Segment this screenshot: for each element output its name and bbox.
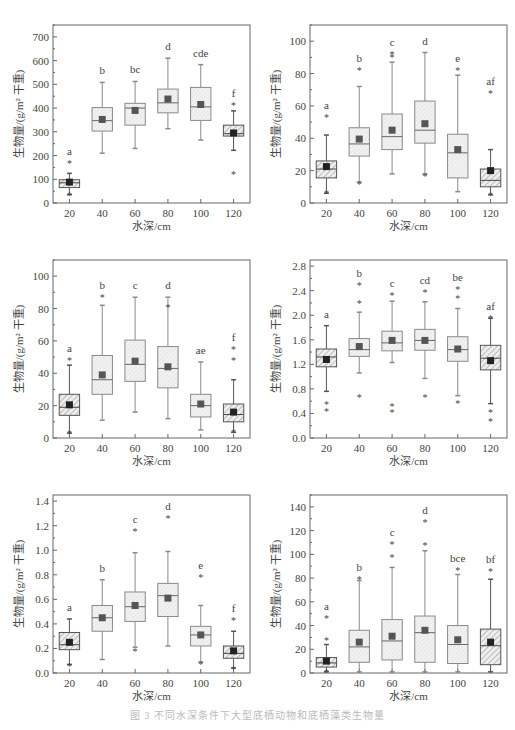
x-tick-label: 80 [162,677,174,689]
outlier-marker: * [357,574,362,585]
outlier-marker: * [422,540,427,551]
y-tick-label: 200 [33,150,50,162]
x-tick-label: 100 [450,442,467,454]
mean-marker [487,639,494,646]
x-tick-label: 80 [419,442,431,454]
box-80: *d [158,500,178,646]
mean-marker [389,337,396,344]
significance-letter: bce [450,552,465,564]
plot-frame [310,260,507,438]
y-tick-label: 0.8 [292,383,306,395]
significance-letter: c [390,36,395,48]
box-100: *e [448,52,468,192]
y-axis-label: 生物量/(g/m² 干重) [12,69,26,158]
x-tick-label: 40 [354,677,366,689]
box-120: **f [223,602,243,675]
outlier-marker: * [357,280,362,291]
x-axis-label: 水深/cm [132,455,171,467]
mean-marker [197,401,204,408]
outlier-marker: * [231,355,236,366]
box-80: *d [158,279,178,418]
box-20: **a [316,308,336,417]
mean-marker [389,127,396,134]
mean-marker [356,343,363,350]
significance-letter: d [165,279,171,291]
y-tick-label: 100 [33,173,50,185]
box-120: ***f [223,331,243,438]
plot-frame [53,495,250,673]
significance-letter: cde [193,47,208,59]
outlier-marker: * [324,635,329,646]
outlier-marker: * [231,100,236,111]
outlier-marker: * [455,565,460,576]
y-axis-label: 生物量/(g/m² 干重) [12,539,26,628]
significance-letter: b [100,64,106,76]
boxplot-f: 02040608010012014020406080100120水深/cm生物量… [257,470,515,702]
significance-letter: f [232,331,236,343]
y-tick-label: 0 [301,197,307,209]
y-tick-label: 80 [295,68,307,80]
x-tick-label: 100 [450,207,467,219]
plot-frame [53,260,250,438]
outlier-marker: * [165,302,170,313]
x-tick-label: 120 [225,207,242,219]
y-tick-label: 2.8 [292,260,306,272]
box-100: ae [191,344,211,430]
mean-marker [454,636,461,643]
y-tick-label: 1.2 [35,520,49,532]
outlier-marker: * [357,179,362,190]
outlier-marker: * [422,171,427,182]
significance-letter: d [165,500,171,512]
boxplot-b: 02040608010020406080100120水深/cm生物量/(g/m²… [257,0,515,232]
plot-frame [310,25,507,203]
mean-marker [164,363,171,370]
outlier-marker: * [324,406,329,417]
mean-marker [132,107,139,114]
y-tick-label: 80 [38,303,50,315]
box-120: ***af [480,300,500,427]
box-80: *d [415,35,435,183]
x-axis-label: 水深/cm [132,220,171,232]
box-120: **af [480,75,500,201]
outlier-marker: * [390,552,395,563]
y-tick-label: 1.6 [292,334,306,346]
box-40: *b [349,561,369,672]
boxplot-e: 0.00.20.40.60.81.01.21.420406080100120水深… [0,470,258,702]
x-tick-label: 100 [193,677,210,689]
significance-letter: b [357,52,363,64]
mean-marker [230,647,237,654]
outlier-marker: * [390,290,395,301]
outlier-marker: * [357,392,362,403]
significance-letter: be [453,271,464,283]
outlier-marker: * [422,287,427,298]
mean-marker [454,346,461,353]
x-tick-label: 40 [354,207,366,219]
mean-marker [99,614,106,621]
significance-letter: a [324,99,329,111]
box-40: b [92,562,112,660]
y-tick-label: 0.0 [35,667,49,679]
chart-panel-d: 0.00.40.81.21.62.02.42.820406080100120水深… [257,235,515,467]
y-tick-label: 100 [290,548,307,560]
mean-marker [421,120,428,127]
significance-letter: ae [196,344,206,356]
y-tick-label: 600 [33,55,50,67]
significance-letter: a [324,600,329,612]
x-tick-label: 20 [321,442,333,454]
y-tick-label: 80 [295,572,307,584]
significance-letter: c [133,513,138,525]
x-tick-label: 40 [97,207,109,219]
x-axis-label: 水深/cm [389,220,428,232]
mean-marker [197,101,204,108]
y-tick-label: 0.4 [292,407,306,419]
outlier-marker: * [133,646,138,657]
box-60: ***c [382,277,402,418]
y-tick-label: 500 [33,78,50,90]
y-tick-label: 1.0 [35,544,49,556]
mean-marker [66,639,73,646]
mean-marker [323,163,330,170]
x-tick-label: 40 [354,442,366,454]
significance-letter: af [486,300,495,312]
x-tick-label: 60 [387,677,399,689]
outlier-marker: * [455,284,460,295]
